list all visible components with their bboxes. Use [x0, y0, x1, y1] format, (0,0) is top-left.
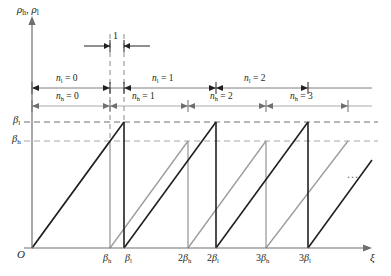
- diagram-svg: [0, 0, 391, 276]
- x-tick-label-3-beta-l: 3βl: [299, 253, 311, 263]
- y-axis-rho-h: ρh: [17, 3, 26, 15]
- band-label-nh-0: nh = 0: [56, 92, 79, 102]
- nh-band-row: [32, 100, 372, 112]
- band-label-nl-0: nl = 0: [56, 74, 77, 84]
- x-tick-label-beta-h: βh: [103, 253, 111, 263]
- band-label-nh-1: nh = 1: [132, 92, 155, 102]
- y-axis-label: ρh, ρl: [17, 4, 39, 15]
- x-tick-label-beta-l: βl: [125, 253, 132, 263]
- band-label-nl-2: nl = 2: [244, 74, 265, 84]
- x-axis-label: ξ: [370, 252, 375, 263]
- dimension-label-1: 1: [113, 31, 118, 41]
- y-tick-label-beta-l: βl: [13, 115, 20, 126]
- y-axis-separator: ,: [26, 3, 32, 15]
- band-label-nh-3: nh = 3: [290, 92, 313, 102]
- band-label-nl-1: nl = 1: [152, 74, 173, 84]
- y-axis-arrow: [28, 16, 35, 25]
- nl-band-row: [32, 82, 372, 94]
- x-tick-label-3-beta-h: 3βh: [256, 253, 269, 263]
- y-axis-rho-l: ρl: [32, 3, 39, 15]
- dimension-marker-1: [84, 40, 150, 52]
- ellipsis-label: ...: [347, 168, 359, 180]
- x-tick-label-2-beta-l: 2βl: [207, 253, 219, 263]
- level-lines: [24, 122, 378, 141]
- x-tick-label-2-beta-h: 2βh: [178, 253, 191, 263]
- band-label-nh-2: nh = 2: [210, 92, 233, 102]
- axes-group: [24, 16, 372, 252]
- origin-label: O: [17, 249, 25, 260]
- figure-canvas: ρh, ρl ξ O βl βh βh βl 2βh 2βl 3βh 3βl 1…: [0, 0, 391, 276]
- y-tick-label-beta-h: βh: [12, 134, 21, 145]
